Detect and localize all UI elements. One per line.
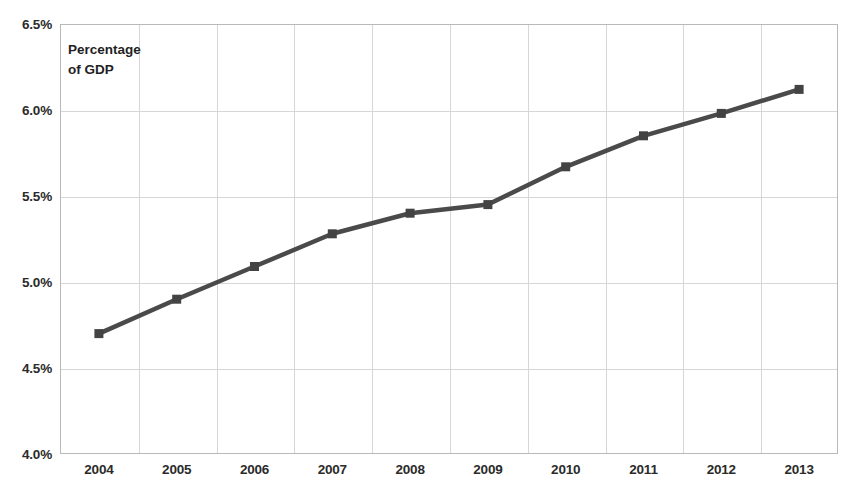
data-series-layer — [0, 0, 849, 496]
data-point-marker — [795, 85, 804, 94]
data-point-marker — [639, 131, 648, 140]
data-point-marker — [406, 209, 415, 218]
data-point-marker — [483, 200, 492, 209]
series-markers — [94, 85, 803, 338]
chart-container: 6.5%6.0%5.5%5.0%4.5%4.0% 200420052006200… — [0, 0, 849, 496]
data-point-marker — [561, 162, 570, 171]
data-point-marker — [717, 109, 726, 118]
data-point-marker — [328, 229, 337, 238]
series-line — [99, 89, 799, 333]
data-point-marker — [172, 295, 181, 304]
data-point-marker — [250, 262, 259, 271]
data-point-marker — [94, 329, 103, 338]
